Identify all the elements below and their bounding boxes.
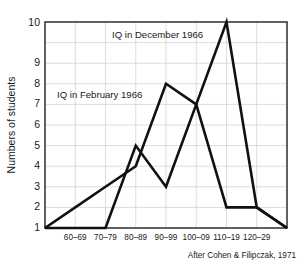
ytick-label-8: 9: [34, 56, 40, 68]
chart-figure: 1 2 3 4 5 6 7 8 9 10 Numbers of students…: [0, 0, 306, 267]
xtick-label-2: 80–89: [124, 233, 147, 242]
iq-distribution-line-chart: 1 2 3 4 5 6 7 8 9 10 Numbers of students…: [0, 0, 306, 267]
ytick-label-9: 10: [28, 16, 40, 28]
ytick-label-0: 1: [34, 221, 40, 233]
series-annotation-december: IQ in December 1966: [112, 29, 203, 40]
ytick-label-5: 6: [34, 118, 40, 130]
xtick-label-0: 60–69: [64, 233, 87, 242]
xtick-label-4: 100–09: [183, 233, 211, 242]
y-axis-tick-labels: 1 2 3 4 5 6 7 8 9 10: [28, 16, 40, 233]
ytick-label-1: 2: [34, 200, 40, 212]
x-axis-tick-labels: 60–69 70–79 80–89 90–99 100–09 110–19 12…: [64, 233, 271, 242]
series-annotation-february: IQ in February 1966: [57, 89, 142, 100]
xtick-label-3: 90–99: [155, 233, 178, 242]
xtick-label-6: 120–29: [243, 233, 271, 242]
y-axis-title: Numbers of students: [5, 77, 17, 174]
xtick-label-1: 70–79: [94, 233, 117, 242]
attribution-text: After Cohen & Filipczak, 1971: [188, 251, 297, 260]
ytick-label-4: 5: [34, 139, 40, 151]
ytick-label-7: 8: [34, 77, 40, 89]
ytick-label-6: 7: [34, 97, 40, 109]
ytick-label-3: 4: [34, 159, 40, 171]
xtick-label-5: 110–19: [213, 233, 240, 242]
ytick-label-2: 3: [34, 180, 40, 192]
